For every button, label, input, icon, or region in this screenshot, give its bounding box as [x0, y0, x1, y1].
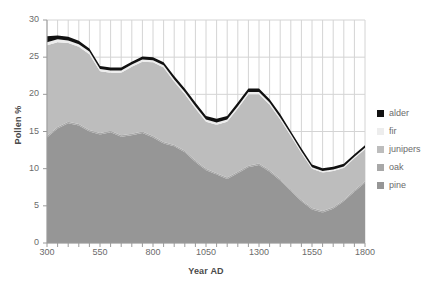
y-tick-label: 20: [13, 88, 39, 98]
legend-item-alder[interactable]: alder: [377, 104, 441, 122]
legend-item-pine[interactable]: pine: [377, 176, 441, 194]
x-tick-label: 1300: [236, 247, 282, 257]
legend-swatch-oak-icon: [377, 164, 384, 171]
chart-legend: alderfirjunipersoakpine: [377, 104, 441, 194]
legend-label-fir: fir: [389, 126, 397, 136]
x-tick-label: 1800: [342, 247, 388, 257]
y-tick-label: 0: [13, 237, 39, 247]
legend-item-junipers[interactable]: junipers: [377, 140, 441, 158]
legend-item-oak[interactable]: oak: [377, 158, 441, 176]
legend-label-pine: pine: [389, 180, 406, 190]
x-axis-title: Year AD: [47, 266, 365, 276]
x-tick-label: 1550: [289, 247, 335, 257]
x-tick-label: 550: [77, 247, 123, 257]
x-tick-label: 300: [24, 247, 70, 257]
legend-swatch-fir-icon: [377, 128, 384, 135]
legend-item-fir[interactable]: fir: [377, 122, 441, 140]
legend-label-alder: alder: [389, 108, 409, 118]
legend-label-oak: oak: [389, 162, 404, 172]
pollen-percentage-area-chart: Pollen % Year AD 051015202530 3005508001…: [0, 0, 444, 288]
x-tick-label: 800: [130, 247, 176, 257]
x-tick-label: 1050: [183, 247, 229, 257]
y-tick-label: 30: [13, 14, 39, 24]
legend-swatch-pine-icon: [377, 182, 384, 189]
legend-swatch-alder-icon: [377, 110, 384, 117]
y-tick-label: 5: [13, 200, 39, 210]
y-tick-label: 15: [13, 126, 39, 136]
y-tick-label: 10: [13, 163, 39, 173]
legend-label-junipers: junipers: [389, 144, 421, 154]
legend-swatch-junipers-icon: [377, 146, 384, 153]
y-tick-label: 25: [13, 51, 39, 61]
